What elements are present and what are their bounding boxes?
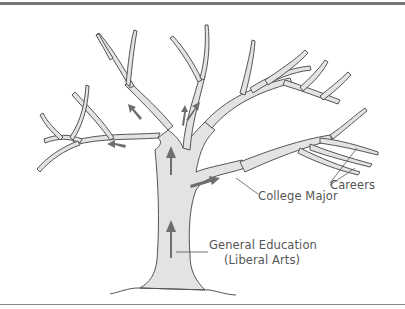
arrow-left-icon — [107, 140, 126, 148]
branch-college-major — [240, 135, 332, 172]
arrow-upleft-icon — [128, 104, 142, 120]
tree-illustration — [0, 0, 405, 309]
upper-right-limb — [205, 78, 292, 128]
label-general-education: General Education — [209, 238, 317, 252]
bottom-rule — [0, 304, 405, 305]
left-branch — [73, 133, 160, 145]
label-college-major: College Major — [258, 189, 338, 203]
leader-college-major — [236, 178, 258, 194]
twig-careers-4 — [330, 108, 367, 139]
ground-line — [110, 288, 236, 295]
upper-left-limb — [125, 81, 173, 130]
label-liberal-arts: (Liberal Arts) — [224, 253, 300, 267]
